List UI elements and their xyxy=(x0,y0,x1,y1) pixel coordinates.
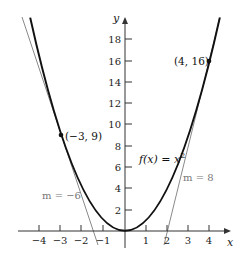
point-left xyxy=(59,133,64,138)
y-axis-label: y xyxy=(112,12,120,25)
x-tick-label: 1 xyxy=(143,235,149,246)
slope-right-label: m = 8 xyxy=(183,172,214,183)
y-tick-labels: 2 4 6 8 10 12 14 16 18 xyxy=(108,34,121,216)
function-label: f(x) = x2 xyxy=(138,151,185,166)
function-label-base: f(x) = x xyxy=(138,153,181,166)
x-tick-label: 2 xyxy=(164,235,170,246)
y-axis-arrow-icon xyxy=(122,17,128,24)
y-tick-label: 18 xyxy=(108,34,121,45)
x-tick-label: 4 xyxy=(206,235,212,246)
y-tick-label: 2 xyxy=(115,205,121,216)
y-tick-label: 6 xyxy=(115,162,121,173)
y-tick-label: 8 xyxy=(115,141,121,152)
y-ticks xyxy=(125,39,132,210)
x-axis-arrow-icon xyxy=(224,228,231,234)
function-label-exponent: 2 xyxy=(180,151,185,160)
x-tick-label: −3 xyxy=(53,235,68,246)
x-tick-labels: −4 −3 −2 −1 1 2 3 4 xyxy=(32,235,213,246)
x-tick-label: 3 xyxy=(185,235,191,246)
x-tick-label: −4 xyxy=(32,235,47,246)
y-tick-label: 12 xyxy=(108,98,121,109)
slope-left-label: m = −6 xyxy=(42,190,81,201)
y-tick-label: 4 xyxy=(115,183,121,194)
parabola-tangent-chart: −4 −3 −2 −1 1 2 3 4 x 2 4 6 8 10 12 14 1… xyxy=(0,0,244,257)
y-tick-label: 16 xyxy=(108,56,121,67)
x-tick-label: −2 xyxy=(74,235,89,246)
y-tick-label: 10 xyxy=(108,119,121,130)
point-left-label: (−3, 9) xyxy=(65,130,102,142)
point-right-label: (4, 16) xyxy=(174,55,209,67)
x-tick-label: −1 xyxy=(96,235,111,246)
x-axis-label: x xyxy=(227,236,234,249)
y-tick-label: 14 xyxy=(108,77,121,88)
